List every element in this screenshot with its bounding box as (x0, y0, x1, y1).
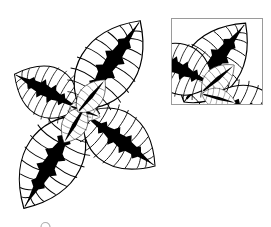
bud-icon (41, 223, 50, 227)
inset-view (133, 4, 271, 161)
main-plant (0, 3, 172, 224)
plant-illustration (0, 0, 271, 227)
